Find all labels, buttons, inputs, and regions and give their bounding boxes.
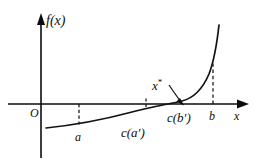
x-star-asterisk: * (158, 77, 163, 87)
function-curve (46, 25, 219, 128)
point-label-c-b-prime: c(b′) (167, 111, 191, 124)
y-axis (37, 13, 45, 158)
x-axis-label: x (234, 110, 239, 122)
figure-container: f(x) O a c(a′) x* c(b′) b x (0, 0, 254, 162)
y-axis-label: f(x) (46, 14, 65, 28)
point-label-b: b (209, 110, 215, 122)
point-label-x-star: x* (152, 78, 162, 92)
point-label-c-a-prime: c(a′) (121, 126, 145, 139)
point-label-a: a (75, 131, 81, 143)
origin-label: O (30, 107, 39, 119)
